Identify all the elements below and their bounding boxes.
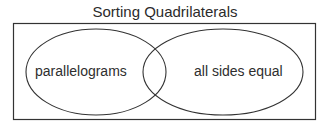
parallelograms-label: parallelograms — [35, 63, 127, 79]
all-sides-equal-label: all sides equal — [194, 63, 283, 79]
